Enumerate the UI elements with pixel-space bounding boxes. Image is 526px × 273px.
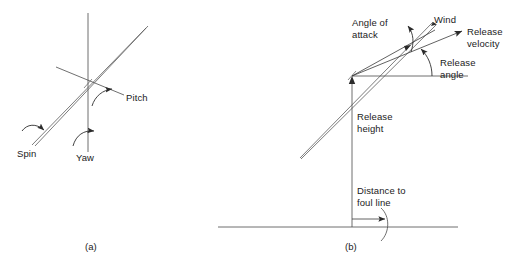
pitch-rotation-arrow <box>92 89 112 106</box>
wind-label: Wind <box>434 14 456 26</box>
javelin-shaft-upper-a <box>32 28 146 145</box>
javelin-shaft-lower-a <box>35 26 148 146</box>
panel-a-group <box>22 13 148 152</box>
angle-of-attack-arc <box>408 26 413 52</box>
release-angle-label: Release angle <box>440 57 476 80</box>
javelin-shaft-lower-b <box>301 25 436 159</box>
release-height-label: Release height <box>357 111 393 134</box>
javelin-mechanics-figure <box>0 0 526 273</box>
pitch-label: Pitch <box>126 92 148 104</box>
panel-b-group <box>218 22 468 241</box>
spin-rotation-arrow <box>22 125 44 131</box>
release-height-arrowhead <box>349 76 355 84</box>
angle-of-attack-label: Angle of attack <box>352 17 388 40</box>
release-velocity-label: Release velocity <box>467 26 503 49</box>
panel-b-caption: (b) <box>345 241 357 252</box>
distance-to-foul-line-label: Distance to foul line <box>357 185 406 208</box>
yaw-rotation-arrow <box>73 131 94 146</box>
spin-label: Spin <box>17 148 36 160</box>
foul-line-marker <box>381 208 388 241</box>
panel-a-caption: (a) <box>85 241 97 252</box>
release-angle-arc <box>421 49 432 76</box>
yaw-label: Yaw <box>76 152 94 164</box>
